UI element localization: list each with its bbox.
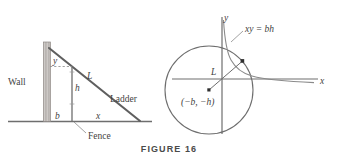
h-label: h: [75, 83, 80, 93]
fence-label: Fence: [88, 131, 111, 141]
ladder-over-fence-diagram: Wall y h b x L Fence Ladder: [8, 42, 152, 141]
figure-caption: FIGURE 16: [0, 144, 338, 154]
ladder-label: Ladder: [110, 94, 138, 104]
center-coordinates-label: (−b, −h): [181, 97, 214, 108]
wall-label: Wall: [8, 77, 26, 87]
ladder-line: [49, 48, 140, 121]
b-label: b: [55, 111, 60, 121]
x-axis-label: x: [319, 76, 325, 86]
L-label-right: L: [210, 67, 216, 77]
figure-svg: Wall y h b x L Fence Ladder: [0, 0, 338, 164]
center-point: [207, 88, 210, 91]
curve-leader-line: [231, 31, 243, 42]
fence-leader-line: [74, 122, 86, 133]
hyperbola-circle-diagram: y x xy = bh L (−b, −h): [165, 13, 325, 134]
y-label: y: [52, 56, 58, 66]
x-label: x: [95, 111, 101, 121]
tangency-point: [241, 59, 245, 63]
curve-equation-label: xy = bh: [244, 24, 274, 34]
figure-container: Wall y h b x L Fence Ladder: [0, 0, 338, 164]
L-label-left: L: [86, 71, 92, 81]
y-axis-label: y: [223, 13, 229, 23]
wall-bar: [44, 42, 51, 122]
